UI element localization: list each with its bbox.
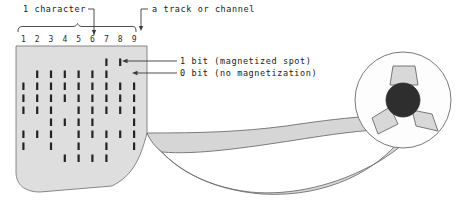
bit-mark <box>22 107 24 115</box>
bit-mark <box>50 143 52 151</box>
bit-mark <box>133 131 135 139</box>
column-number-7: 7 <box>104 35 109 44</box>
column-number-5: 5 <box>76 35 81 44</box>
bit-mark <box>91 83 93 91</box>
bit-mark <box>119 83 121 91</box>
bit-mark <box>78 119 80 127</box>
zero-bit-label: 0 bit (no magnetization) <box>180 68 317 78</box>
bit-mark <box>105 107 107 115</box>
bit-mark <box>78 107 80 115</box>
column-number-3: 3 <box>49 35 54 44</box>
bit-mark <box>105 155 107 163</box>
bit-mark <box>50 71 52 79</box>
tape-flat-panel <box>16 46 147 192</box>
column-number-9: 9 <box>132 35 137 44</box>
bit-mark <box>50 95 52 103</box>
bit-mark <box>78 143 80 151</box>
bit-mark <box>105 59 107 67</box>
one-bit-label: 1 bit (magnetized spot) <box>180 56 312 66</box>
bit-mark <box>105 143 107 151</box>
bit-mark <box>22 95 24 103</box>
bit-mark <box>36 95 38 103</box>
bit-mark <box>78 131 80 139</box>
bit-mark <box>119 131 121 139</box>
bit-mark <box>105 83 107 91</box>
bit-mark <box>50 119 52 127</box>
bit-mark <box>36 131 38 139</box>
bit-mark <box>50 131 52 139</box>
bit-mark <box>91 107 93 115</box>
track-leader-arrow <box>139 26 143 31</box>
diagram-canvas: 1 2 3 4 5 6 7 8 9 1 character a track or… <box>0 0 472 207</box>
bit-mark <box>133 107 135 115</box>
bit-mark <box>22 83 24 91</box>
track-leader-line <box>141 9 148 28</box>
bit-mark <box>119 107 121 115</box>
track-label: a track or channel <box>152 4 255 14</box>
bit-mark <box>50 83 52 91</box>
bit-mark <box>78 83 80 91</box>
bit-mark <box>91 95 93 103</box>
bit-mark <box>133 95 135 103</box>
bit-mark <box>105 95 107 103</box>
tape-reel <box>355 52 451 148</box>
magnetic-tape-diagram: 1 2 3 4 5 6 7 8 9 1 character a track or… <box>0 0 472 207</box>
bit-mark <box>119 59 121 67</box>
column-number-1: 1 <box>21 35 26 44</box>
reel-hub <box>386 83 420 117</box>
bit-mark <box>91 131 93 139</box>
bit-mark <box>105 71 107 79</box>
bit-mark <box>78 71 80 79</box>
reel-spoke-top <box>390 66 418 85</box>
bit-mark <box>133 83 135 91</box>
bit-mark <box>91 119 93 127</box>
bit-mark <box>78 155 80 163</box>
bit-mark <box>22 143 24 151</box>
bit-mark <box>22 131 24 139</box>
bit-mark <box>50 107 52 115</box>
bit-mark <box>64 95 66 103</box>
column-number-6: 6 <box>90 35 95 44</box>
bit-mark <box>36 107 38 115</box>
bit-mark <box>64 83 66 91</box>
bit-mark <box>36 71 38 79</box>
bit-mark <box>119 95 121 103</box>
character-span-brace <box>18 24 136 33</box>
bit-mark <box>91 155 93 163</box>
bit-mark <box>64 155 66 163</box>
bit-mark <box>64 71 66 79</box>
column-number-4: 4 <box>62 35 67 44</box>
bit-mark <box>91 71 93 79</box>
bit-mark <box>64 119 66 127</box>
bit-mark <box>36 83 38 91</box>
character-label: 1 character <box>23 4 86 14</box>
bit-mark <box>78 95 80 103</box>
bit-mark <box>105 131 107 139</box>
column-number-2: 2 <box>35 35 40 44</box>
bit-mark <box>133 119 135 127</box>
column-number-8: 8 <box>118 35 123 44</box>
bit-mark <box>133 143 135 151</box>
